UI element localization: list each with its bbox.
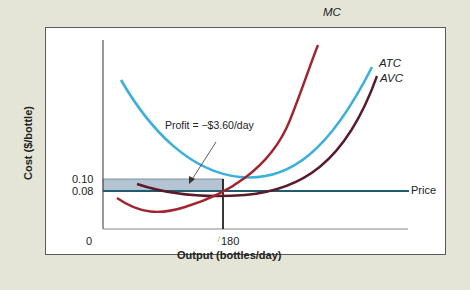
mc-label: MC (323, 6, 341, 18)
x-tick-mark (218, 236, 220, 242)
avc-label: AVC (380, 72, 403, 84)
atc-label: ATC (379, 57, 401, 69)
x-axis-title: Output (bottles/day) (177, 249, 282, 261)
loss-region (103, 179, 223, 191)
origin-label: 0 (86, 235, 92, 247)
price-label: Price (411, 184, 436, 196)
x-tick-180: 180 (221, 235, 239, 247)
profit-annotation: Profit = −$3.60/day (165, 119, 254, 131)
y-axis-title: Cost ($/bottle) (22, 106, 34, 180)
y-tick-0-08: 0.08 (72, 185, 93, 197)
y-tick-0-10: 0.10 (72, 173, 93, 185)
